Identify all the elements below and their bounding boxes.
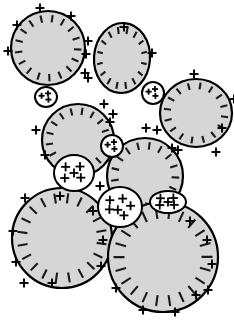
- minus-sign-icon: [15, 52, 22, 53]
- bridge-droplet-body: [35, 87, 57, 107]
- minus-sign-icon: [126, 27, 127, 34]
- bridge-droplet-body: [98, 187, 142, 227]
- minus-sign-icon: [191, 137, 192, 144]
- bridge-droplet-body: [101, 135, 123, 157]
- minus-sign-icon: [97, 52, 103, 53]
- bridge-droplet-body: [142, 82, 164, 104]
- bridge-droplet-lower-left: [54, 155, 94, 191]
- minus-sign-icon: [149, 142, 150, 150]
- minus-sign-icon: [164, 109, 171, 110]
- droplet-right: [160, 79, 232, 147]
- minus-sign-icon: [111, 180, 119, 181]
- minus-sign-icon: [125, 82, 127, 89]
- bridge-droplet-upper-right: [142, 82, 164, 104]
- droplet-body: [12, 188, 112, 288]
- minus-sign-icon: [52, 15, 53, 22]
- minus-sign-icon: [56, 273, 57, 283]
- minus-sign-icon: [46, 143, 53, 144]
- minus-sign-icon: [141, 63, 147, 64]
- minus-sign-icon: [97, 243, 107, 244]
- charged-droplet-diagram: [0, 0, 234, 333]
- minus-sign-icon: [82, 108, 83, 115]
- droplet-bottom-left: [12, 188, 112, 288]
- bridge-droplet-lower-right: [150, 191, 186, 213]
- minus-sign-icon: [67, 193, 68, 203]
- droplet-body: [160, 79, 232, 147]
- figure-container: [0, 0, 234, 333]
- bridge-droplet-lower-mid: [98, 187, 142, 227]
- minus-sign-icon: [200, 83, 201, 90]
- droplet-body: [11, 11, 85, 85]
- bridge-droplet-center: [101, 135, 123, 157]
- minus-sign-icon: [221, 116, 228, 117]
- minus-sign-icon: [17, 232, 27, 233]
- bridge-droplet-upper-left: [35, 87, 57, 107]
- droplet-top-left: [11, 11, 85, 85]
- minus-sign-icon: [117, 27, 119, 34]
- minus-sign-icon: [116, 82, 117, 89]
